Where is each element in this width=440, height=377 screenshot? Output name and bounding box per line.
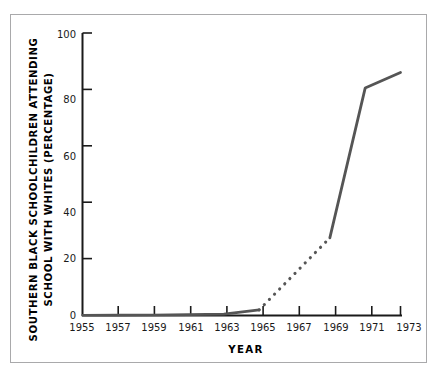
data-line-solid-late: [330, 73, 401, 238]
x-tick-label-1973: 1973: [387, 322, 431, 333]
data-line-dotted-estimate: [259, 238, 330, 310]
y-axis-ticks: [83, 33, 93, 259]
x-axis-tick-labels: 1955 1957 1959 1961 1963 1965 1967 1969 …: [0, 322, 440, 338]
y-axis-title-line-1: SOUTHERN BLACK SCHOOLCHILDREN ATTENDING: [26, 38, 41, 342]
x-axis-title: YEAR: [82, 344, 410, 355]
chart-canvas: [72, 19, 410, 321]
plot-area: [72, 19, 410, 321]
